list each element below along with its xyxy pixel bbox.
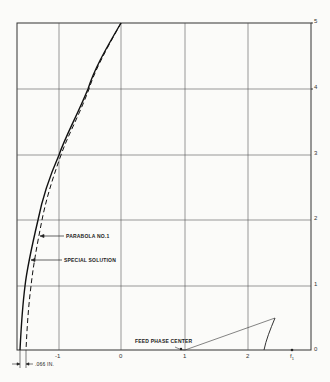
y-tick-2: 2: [314, 215, 317, 221]
x-tick-1: 1: [183, 353, 186, 359]
diagram-figure: [0, 0, 330, 382]
feed-phase-center-label: FEED PHASE CENTER: [135, 338, 192, 344]
offset-dimension: [12, 350, 33, 368]
x-tick-minus1: -1: [55, 353, 60, 359]
f1-dot: [291, 349, 294, 352]
feed-phase-center-dot: [180, 348, 182, 350]
offset-label: .066 IN.: [35, 361, 54, 367]
x-tick-0: 0: [119, 353, 122, 359]
y-tick-0: 0: [314, 346, 317, 352]
special-solution-curve: [26, 23, 121, 350]
f1-subscript: 1: [292, 356, 294, 361]
y-tick-4: 4: [314, 84, 317, 90]
x-tick-2: 2: [246, 353, 249, 359]
parabola-curve: [20, 23, 121, 350]
special-solution-label: SPECIAL SOLUTION: [64, 257, 116, 263]
x-tick-f1: f1: [290, 353, 294, 361]
parabola-label: PARABOLA NO.1: [66, 233, 109, 239]
vertical-grid: [59, 23, 248, 350]
y-tick-5: 5: [314, 18, 317, 24]
feed-construction: [175, 318, 275, 350]
horizontal-grid: [17, 89, 311, 286]
y-tick-1: 1: [314, 281, 317, 287]
plot-frame: [17, 23, 311, 350]
y-tick-3: 3: [314, 150, 317, 156]
